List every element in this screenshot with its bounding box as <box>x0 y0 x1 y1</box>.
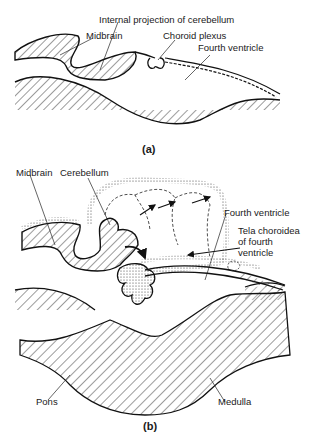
midbrain-shape-a <box>15 34 136 80</box>
label-pons: Pons <box>36 396 58 407</box>
cerebellum-shape-b <box>22 218 138 271</box>
choroid-plexus-b <box>118 264 155 304</box>
diagram-canvas <box>0 0 315 444</box>
choroid-plexus-a <box>148 58 164 68</box>
label-internal-projection: Internal projection of cerebellum <box>99 14 234 25</box>
label-medulla: Medulla <box>218 396 251 407</box>
caption-a: (a) <box>142 143 155 155</box>
label-tela-line2: of fourth <box>238 236 273 247</box>
label-tela-line3: ventricle <box>238 247 273 258</box>
label-tela-line1: Tela choroidea <box>238 225 300 236</box>
label-fourth-ventricle-a: Fourth ventricle <box>198 42 263 53</box>
label-fourth-ventricle-b: Fourth ventricle <box>224 207 289 218</box>
panel-a-drawing <box>0 22 315 132</box>
label-midbrain-a: Midbrain <box>86 30 122 41</box>
label-cerebellum: Cerebellum <box>60 167 109 178</box>
label-choroid-plexus: Choroid plexus <box>163 30 226 41</box>
label-midbrain-b: Midbrain <box>16 167 52 178</box>
caption-b: (b) <box>143 420 157 432</box>
